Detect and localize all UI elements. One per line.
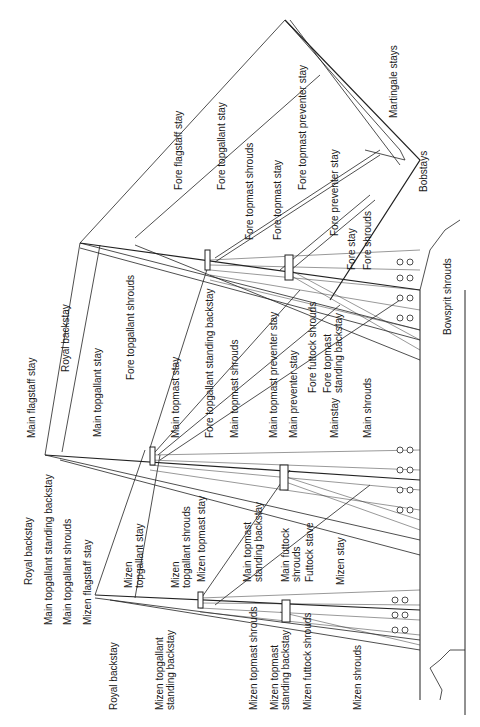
label-main-topgallant-shrouds: Main topgallant shrouds	[62, 519, 73, 625]
label-bobstays: Bobstays	[418, 151, 429, 192]
label-mizen-shrouds: Mizen shrouds	[352, 645, 363, 710]
label-main-topgallant-stay: Main topgallant stay	[92, 348, 103, 437]
label-mizen-topmast-standing-backstay: Mizen topmaststanding backstay	[269, 630, 291, 710]
label-fore-flagstaff-stay: Fore flagstaff stay	[173, 111, 184, 190]
label-line-2: standing backstay	[280, 630, 291, 710]
label-fore-topgallant-stay: Fore topgallant stay	[216, 102, 227, 190]
label-mizen-topmast-shrouds: Mizen topmast shrouds	[248, 607, 259, 710]
label-line-1: Main topmast	[242, 522, 253, 582]
label-main-topmast-preventer-stay: Main topmast preventer stay	[268, 312, 279, 438]
label-futtock-stave: Futtock stave	[304, 523, 315, 582]
label-main-topmast-shrouds: Main topmast shrouds	[229, 340, 240, 438]
label-line-2: standing backstay	[165, 630, 176, 710]
stern-profile	[430, 650, 465, 700]
label-mizen-flagstaff-stay: Mizen flagstaff stay	[82, 540, 93, 625]
label-mizen-topgallant-standing-backstay: Mizen topgallantstanding backstay	[154, 630, 176, 710]
label-main-futtock-shrouds: Main futtockshrouds	[280, 528, 302, 582]
label-fore-topmast-preventer-stay: Fore topmast preventer stay	[297, 65, 308, 190]
label-royal-backstay-top: Royal backstay	[60, 304, 71, 372]
label-main-preventer-stay: Main preventer stay	[288, 350, 299, 438]
label-bowsprit-shrouds: Bowsprit shrouds	[442, 258, 453, 335]
label-line-2: topgallant stay	[134, 524, 145, 589]
label-fore-shrouds: Fore shrouds	[362, 211, 373, 270]
bow-profile	[420, 220, 460, 290]
deadeyes	[392, 259, 413, 633]
label-line-2: topgallant shrouds	[181, 506, 192, 588]
label-main-topgallant-standing-backstay: Main topgallant standing backstay	[43, 474, 54, 625]
label-line-1: Fore topmast	[322, 334, 333, 393]
label-line-1: Main futtock	[280, 528, 291, 582]
label-fore-topgallant-shrouds: Fore topgallant shrouds	[125, 275, 136, 380]
label-fore-topgallant-standing-backstay: Fore topgallant standing backstay	[204, 288, 215, 438]
label-royal-backstay-main: Royal backstay	[23, 517, 34, 585]
label-fore-preventer-stay: Fore preventer stay	[329, 149, 340, 236]
label-fore-topmast-stay: Fore topmast stay	[272, 160, 283, 240]
label-mizen-stay: Mizen stay	[335, 537, 346, 585]
label-fore-futtock-shrouds: Fore futtock shrouds	[307, 302, 318, 393]
label-line-2: shrouds	[291, 546, 302, 582]
label-main-flagstaff-stay: Main flagstaff stay	[26, 358, 37, 438]
label-main-topmast-standing-backstay: Main topmaststanding backstay	[242, 502, 264, 582]
label-main-shrouds: Main shrouds	[362, 378, 373, 438]
label-line-1: Mizen topmast	[269, 645, 280, 710]
label-mainstay: Mainstay	[329, 398, 340, 438]
label-mizen-topmast-stay: Mizen topmast stay	[196, 496, 207, 582]
label-main-topmast-stay: Main topmast stay	[170, 357, 181, 438]
label-line-1: Mizen	[170, 561, 181, 588]
label-line-1: Mizen topgallant	[154, 637, 165, 710]
label-line-2: standing backstay	[253, 502, 264, 582]
label-mizen-topgallant-shrouds: Mizentopgallant shrouds	[170, 506, 192, 588]
label-mizen-futtock-shrouds: Mizen futtock shrouds	[302, 613, 313, 710]
label-line-1: Mizen	[123, 561, 134, 588]
label-mizen-topgallant-stay: Mizentopgallant stay	[123, 524, 145, 589]
label-royal-backstay-mizen: Royal backstay	[108, 642, 119, 710]
label-fore-topmast-standing-backstay: Fore topmaststanding backstay	[322, 313, 344, 393]
label-fore-stay: Fore stay	[346, 228, 357, 270]
label-martingale-stays: Martingale stays	[388, 45, 399, 118]
label-fore-topmast-shrouds: Fore topmast shrouds	[244, 143, 255, 240]
fore-topgallant-stay-line	[135, 75, 320, 238]
label-line-2: standing backstay	[333, 313, 344, 393]
